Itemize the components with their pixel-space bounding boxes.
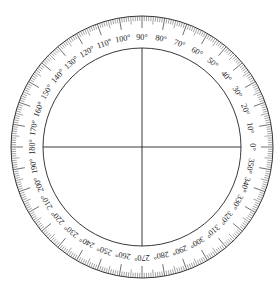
tick-mark xyxy=(226,50,229,54)
degree-label: 130° xyxy=(62,54,80,71)
tick-mark xyxy=(263,111,268,112)
tick-mark xyxy=(36,70,40,73)
tick-mark xyxy=(14,120,19,121)
tick-mark xyxy=(266,167,271,168)
tick-mark xyxy=(155,17,156,22)
tick-mark xyxy=(212,38,215,42)
tick-mark xyxy=(15,115,20,116)
degree-label: 30° xyxy=(230,85,244,99)
degree-label: 280° xyxy=(153,250,170,262)
tick-mark xyxy=(119,264,121,276)
tick-mark xyxy=(26,85,30,87)
tick-mark xyxy=(264,177,269,178)
tick-mark xyxy=(37,68,41,71)
tick-mark xyxy=(19,188,30,192)
tick-mark xyxy=(29,82,39,88)
tick-mark xyxy=(211,253,214,257)
tick-mark xyxy=(78,32,80,36)
tick-mark xyxy=(225,242,228,246)
tick-mark xyxy=(237,61,241,64)
tick-mark xyxy=(157,17,158,22)
tick-mark xyxy=(13,124,25,126)
tick-mark xyxy=(201,31,203,35)
tick-mark xyxy=(73,36,76,40)
tick-mark xyxy=(93,264,95,269)
tick-mark xyxy=(202,34,208,44)
tick-mark xyxy=(40,65,44,68)
tick-mark xyxy=(191,26,193,31)
tick-mark xyxy=(33,74,37,77)
tick-mark xyxy=(54,50,57,54)
tick-mark xyxy=(119,18,121,30)
tick-mark xyxy=(207,255,210,259)
tick-mark xyxy=(181,267,183,272)
degree-label: 320° xyxy=(218,209,235,227)
degree-label: 170° xyxy=(28,119,40,136)
tick-mark xyxy=(221,245,224,249)
tick-mark xyxy=(115,270,116,275)
tick-mark xyxy=(262,186,267,188)
tick-mark xyxy=(85,260,87,264)
tick-mark xyxy=(193,262,195,267)
tick-mark xyxy=(244,70,248,73)
tick-mark xyxy=(19,102,30,106)
tick-mark xyxy=(213,248,218,255)
tick-mark xyxy=(30,80,34,83)
tick-mark xyxy=(216,249,219,253)
tick-mark xyxy=(246,74,250,77)
tick-mark xyxy=(39,66,43,69)
tick-mark xyxy=(49,54,55,60)
tick-mark xyxy=(97,259,101,270)
tick-mark xyxy=(124,272,125,277)
tick-mark xyxy=(254,188,265,192)
tick-mark xyxy=(83,259,85,263)
tick-mark xyxy=(265,158,273,159)
tick-mark xyxy=(21,96,26,98)
tick-mark xyxy=(56,242,59,246)
tick-mark xyxy=(203,32,205,36)
tick-mark xyxy=(69,251,72,255)
tick-mark xyxy=(246,217,250,220)
tick-mark xyxy=(157,272,158,277)
tick-mark xyxy=(60,45,63,49)
degree-label: 250° xyxy=(96,243,114,257)
tick-mark xyxy=(233,56,237,59)
tick-mark xyxy=(11,158,19,159)
tick-mark xyxy=(168,270,169,275)
tick-mark xyxy=(187,265,189,270)
tick-mark xyxy=(216,41,219,45)
tick-mark xyxy=(80,31,82,35)
tick-mark xyxy=(126,272,127,277)
tick-mark xyxy=(209,254,212,258)
tick-mark xyxy=(48,235,52,238)
tick-mark xyxy=(12,131,17,132)
tick-mark xyxy=(170,19,171,24)
tick-mark xyxy=(45,231,49,234)
degree-label: 210° xyxy=(39,193,55,211)
tick-mark xyxy=(54,241,57,245)
tick-mark xyxy=(266,122,271,123)
tick-mark xyxy=(43,230,47,233)
tick-mark xyxy=(32,76,36,79)
tick-mark xyxy=(248,76,252,79)
tick-mark xyxy=(248,216,252,219)
tick-mark xyxy=(259,194,264,196)
tick-mark xyxy=(46,233,50,236)
tick-mark xyxy=(160,17,161,22)
tick-mark xyxy=(201,258,203,262)
degree-label: 100° xyxy=(114,33,131,45)
tick-mark xyxy=(131,270,132,278)
tick-mark xyxy=(51,53,54,57)
tick-mark xyxy=(234,58,238,61)
tick-mark xyxy=(12,133,17,134)
tick-mark xyxy=(73,254,76,258)
tick-mark xyxy=(45,59,49,62)
tick-mark xyxy=(255,90,259,92)
tick-mark xyxy=(78,257,80,261)
tick-mark xyxy=(218,248,221,252)
tick-mark xyxy=(218,42,221,46)
tick-mark xyxy=(21,98,26,100)
tick-mark xyxy=(253,206,257,208)
tick-mark xyxy=(46,58,50,61)
tick-mark xyxy=(245,207,255,213)
